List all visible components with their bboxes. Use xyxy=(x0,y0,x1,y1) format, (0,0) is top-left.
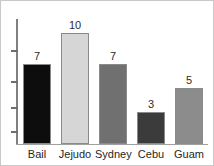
bar-slot: 7 xyxy=(98,19,128,144)
y-axis-tick xyxy=(11,131,18,133)
bar-jejudo xyxy=(61,33,89,144)
category-label-bail: Bail xyxy=(19,147,55,161)
bar-chart: 7 10 7 3 5 Bail Jejudo Syd xyxy=(0,0,214,166)
category-label-jejudo: Jejudo xyxy=(57,147,93,161)
y-axis-tick xyxy=(11,50,18,52)
y-axis-tick xyxy=(11,81,18,83)
bar-value-label: 7 xyxy=(110,50,116,62)
bar-value-label: 7 xyxy=(34,50,40,62)
bar-group: 7 10 7 3 5 xyxy=(18,19,208,144)
category-label-guam: Guam xyxy=(171,147,207,161)
y-axis-tick xyxy=(11,107,18,109)
bar-slot: 5 xyxy=(174,19,204,144)
bar-sydney xyxy=(99,64,127,144)
x-axis-category-labels: Bail Jejudo Sydney Cebu Guam xyxy=(18,147,208,165)
bar-value-label: 3 xyxy=(148,98,154,110)
category-label-cebu: Cebu xyxy=(133,147,169,161)
plot-area: 7 10 7 3 5 Bail Jejudo Syd xyxy=(1,1,214,166)
bar-guam xyxy=(175,88,203,144)
bar-slot: 10 xyxy=(60,19,90,144)
bar-value-label: 10 xyxy=(69,19,81,31)
bar-slot: 3 xyxy=(136,19,166,144)
x-axis-line xyxy=(16,144,208,145)
bar-bail xyxy=(23,64,51,144)
bar-slot: 7 xyxy=(22,19,52,144)
category-label-sydney: Sydney xyxy=(95,147,131,161)
bar-cebu xyxy=(137,112,165,145)
bar-value-label: 5 xyxy=(186,74,192,86)
